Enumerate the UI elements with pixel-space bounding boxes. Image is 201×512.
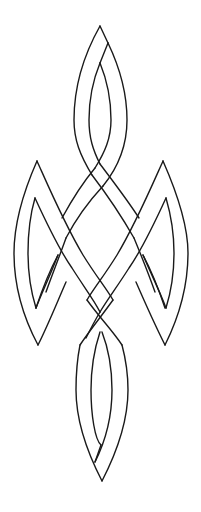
celtic-knot-drawing: [0, 0, 201, 512]
central-weave: [35, 161, 166, 312]
top-loop: [74, 26, 127, 186]
lower-weave: [80, 300, 122, 345]
celtic-knot-icon: [0, 0, 201, 512]
bottom-loop: [76, 332, 128, 481]
right-wing: [136, 161, 188, 345]
left-wing: [14, 161, 66, 345]
